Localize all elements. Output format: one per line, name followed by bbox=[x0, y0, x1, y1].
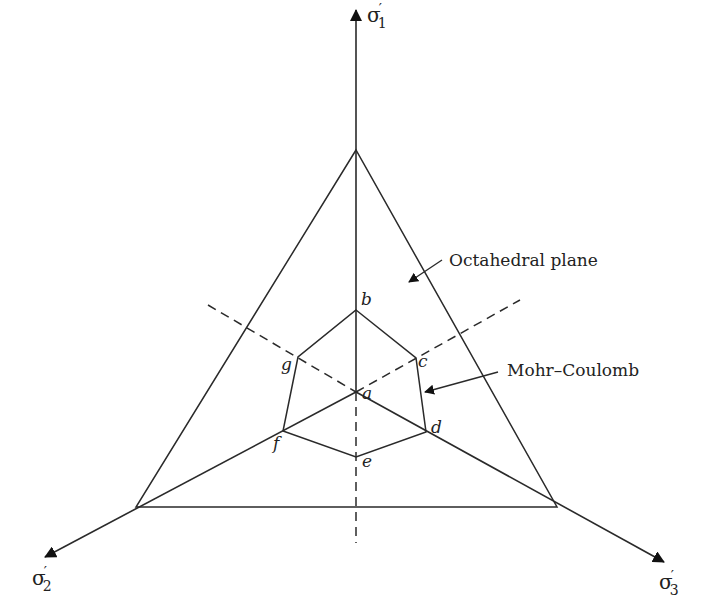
mohr-coulomb-label: Mohr–Coulomb bbox=[507, 360, 639, 380]
point-label-a: a bbox=[362, 383, 372, 403]
sigma1-label: σ′1 bbox=[367, 1, 387, 31]
stress-axes bbox=[45, 10, 664, 562]
mohr-coulomb-hexagon bbox=[283, 310, 426, 457]
point-label-f: f bbox=[271, 433, 282, 453]
sigma2-axis bbox=[45, 392, 356, 557]
annotation-arrows bbox=[409, 260, 498, 392]
octahedral-plane-pointer bbox=[409, 260, 442, 282]
sigma3-label: σ′3 bbox=[659, 568, 679, 598]
point-label-d: d bbox=[431, 417, 442, 437]
dashed-line-left bbox=[208, 305, 356, 392]
dashed-line-right bbox=[356, 300, 520, 392]
sigma3-axis bbox=[356, 392, 664, 562]
octahedral-plane-label: Octahedral plane bbox=[449, 250, 598, 270]
sigma2-label: σ′2 bbox=[32, 564, 52, 594]
point-label-g: g bbox=[281, 354, 292, 374]
point-label-b: b bbox=[361, 289, 372, 309]
point-label-e: e bbox=[362, 451, 372, 471]
octahedral-plane-diagram: σ′1 σ′2 σ′3 a b c d e f g Octahedral pla… bbox=[0, 0, 710, 616]
point-label-c: c bbox=[418, 351, 428, 371]
